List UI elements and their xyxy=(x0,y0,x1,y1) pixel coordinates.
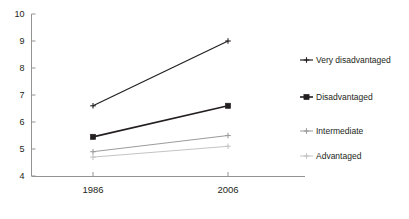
series-very-disadvantaged-point-0-marker xyxy=(90,103,96,109)
y-tick-label-5: 5 xyxy=(19,144,24,154)
series-advantaged xyxy=(90,144,231,160)
legend-label-disadvantaged: Disadvantaged xyxy=(316,92,373,102)
x-tick-label-2006: 2006 xyxy=(217,184,238,195)
series-very-disadvantaged-point-1-marker xyxy=(225,38,231,44)
series-line-disadvantaged xyxy=(93,106,228,137)
legend-label-advantaged: Advantaged xyxy=(316,151,362,161)
y-axis-ticks: 45678910 xyxy=(14,9,35,181)
series-line-advantaged xyxy=(93,146,228,157)
legend-swatch-intermediate-marker xyxy=(304,128,310,134)
x-axis-ticks: 19862006 xyxy=(82,172,238,195)
data-series-layer xyxy=(90,38,231,160)
legend-label-very-disadvantaged: Very disadvantaged xyxy=(316,55,391,65)
y-tick-label-6: 6 xyxy=(19,117,24,127)
x-tick-label-1986: 1986 xyxy=(82,184,103,195)
chart-legend: Very disadvantagedDisadvantagedIntermedi… xyxy=(300,55,391,161)
series-disadvantaged-point-0-marker xyxy=(90,134,95,139)
legend-item-intermediate[interactable]: Intermediate xyxy=(300,126,364,136)
chart-canvas: 45678910 19862006 Very disadvantagedDisa… xyxy=(0,0,409,219)
series-advantaged-point-0-marker xyxy=(90,154,96,160)
series-line-very-disadvantaged xyxy=(93,41,228,106)
y-tick-label-8: 8 xyxy=(19,63,24,73)
y-tick-label-4: 4 xyxy=(19,171,24,181)
series-disadvantaged-point-1-marker xyxy=(225,103,230,108)
series-intermediate-point-0-marker xyxy=(90,149,96,155)
series-advantaged-point-1-marker xyxy=(225,144,231,150)
series-disadvantaged xyxy=(90,103,230,139)
line-chart: 45678910 19862006 Very disadvantagedDisa… xyxy=(0,0,409,219)
series-intermediate-point-1-marker xyxy=(225,133,231,139)
y-tick-label-9: 9 xyxy=(19,36,24,46)
y-tick-label-7: 7 xyxy=(19,90,24,100)
legend-item-very-disadvantaged[interactable]: Very disadvantaged xyxy=(300,55,391,65)
legend-item-advantaged[interactable]: Advantaged xyxy=(300,151,362,161)
legend-item-disadvantaged[interactable]: Disadvantaged xyxy=(300,92,373,102)
series-very-disadvantaged xyxy=(90,38,231,108)
legend-swatch-very-disadvantaged-marker xyxy=(304,57,310,63)
legend-swatch-advantaged-marker xyxy=(304,153,310,159)
y-tick-label-10: 10 xyxy=(14,9,24,19)
legend-label-intermediate: Intermediate xyxy=(316,126,364,136)
legend-swatch-disadvantaged-marker xyxy=(304,94,309,99)
series-line-intermediate xyxy=(93,136,228,152)
